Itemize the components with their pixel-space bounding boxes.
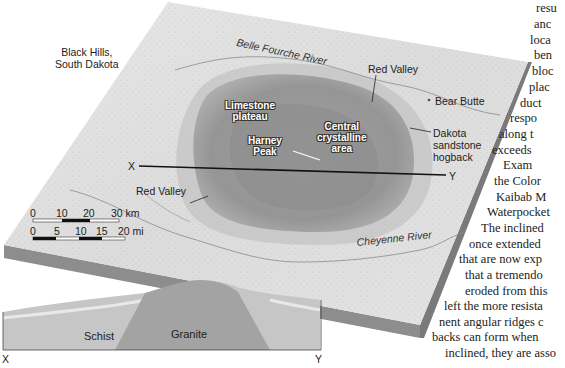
- region-label-line: South Dakota: [55, 58, 119, 70]
- scale-tick: 10: [75, 225, 87, 237]
- text-line: resu: [536, 1, 557, 17]
- label-line: Dakota: [433, 127, 481, 139]
- text-line: plac: [529, 80, 550, 96]
- text-line: exceeds: [492, 143, 532, 159]
- text-line: once extended: [469, 237, 541, 253]
- label-line: Harney: [248, 135, 282, 146]
- text-line: bloc: [532, 64, 554, 80]
- bear-butte-label: Bear Butte: [435, 95, 485, 107]
- text-line: Exam: [503, 158, 532, 174]
- text-line: anc: [534, 17, 551, 33]
- label-line: hogback: [433, 151, 481, 163]
- cross-section-x-label: X: [2, 353, 9, 365]
- label-line: crystalline: [317, 132, 366, 143]
- text-line: left the more resista: [444, 299, 543, 315]
- scale-tick: 0: [30, 207, 36, 219]
- scale-tick: 15: [96, 225, 108, 237]
- text-line: duct: [520, 96, 542, 112]
- text-line: respo: [510, 111, 537, 127]
- text-line: eroded from this: [465, 284, 548, 300]
- cross-section-y-label: Y: [315, 353, 322, 365]
- section-end-label: Y: [449, 170, 456, 182]
- region-label-line: Black Hills,: [55, 46, 119, 58]
- text-line: Kaibab M: [496, 190, 546, 206]
- scale-tick: 0: [30, 225, 36, 237]
- label-line: Central: [317, 121, 366, 132]
- label-line: area: [317, 143, 366, 154]
- granite-label: Granite: [171, 328, 207, 340]
- region-label: Black Hills, South Dakota: [55, 46, 119, 70]
- text-line: Waterpocket: [487, 205, 550, 221]
- scale-tick: 30 km: [111, 207, 140, 219]
- scale-bar-km: [33, 219, 119, 222]
- scale-tick: 20 mi: [118, 225, 144, 237]
- red-valley-north-label: Red Valley: [368, 63, 418, 75]
- harney-peak-label: Harney Peak: [248, 135, 282, 157]
- text-line: ben: [534, 48, 552, 64]
- scale-bar-mi: [33, 237, 125, 240]
- label-line: sandstone: [433, 139, 481, 151]
- text-line: backs can form when: [432, 330, 539, 346]
- text-line: that are now exp: [459, 252, 542, 268]
- schist-label: Schist: [84, 330, 114, 342]
- text-line: that a tremendo: [465, 268, 543, 284]
- scale-tick: 20: [83, 207, 95, 219]
- limestone-plateau-label: Limestone plateau: [225, 100, 275, 122]
- label-line: Limestone: [225, 100, 275, 111]
- label-line: Peak: [248, 146, 282, 157]
- text-line: loca: [530, 33, 551, 49]
- dakota-hogback-label: Dakota sandstone hogback: [433, 127, 481, 163]
- central-crystalline-area-label: Central crystalline area: [317, 121, 366, 154]
- label-line: plateau: [225, 111, 275, 122]
- red-valley-west-label: Red Valley: [136, 185, 186, 197]
- scale-tick: 10: [56, 207, 68, 219]
- scale-tick: 5: [54, 225, 60, 237]
- text-line: nent angular ridges c: [439, 315, 543, 331]
- text-line: the Color: [494, 174, 541, 190]
- text-line: The inclined: [481, 221, 544, 237]
- text-line: inclined, they are asso: [445, 346, 556, 362]
- section-start-label: X: [128, 160, 135, 172]
- text-line: along t: [499, 127, 533, 143]
